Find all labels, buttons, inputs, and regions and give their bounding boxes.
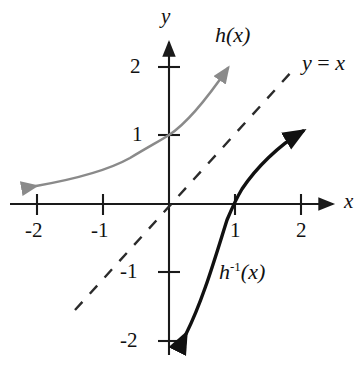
y-tick-label--2: -2 — [120, 330, 138, 351]
y-tick-label-2: 2 — [130, 56, 141, 77]
x-tick-label--1: -1 — [91, 220, 109, 241]
y-axis — [158, 42, 180, 355]
identity-label-x-part: x — [335, 50, 345, 75]
identity-label-y-part: y — [302, 50, 312, 75]
y-axis-label: y — [161, 6, 170, 27]
curve-label-h: h(x) — [215, 24, 250, 46]
inverse-label-argument: (x) — [241, 259, 265, 284]
x-tick-label--2: -2 — [25, 220, 43, 241]
inverse-label-exponent: -1 — [230, 259, 241, 274]
curve-label-h-inverse: h-1(x) — [219, 260, 265, 283]
identity-label-equals-part: = — [312, 50, 335, 75]
x-tick-label-1: 1 — [230, 220, 241, 241]
x-axis-label: x — [344, 191, 353, 212]
curve-h-inverse — [186, 131, 303, 334]
identity-line-label: y = x — [302, 52, 345, 74]
y-tick-label-1: 1 — [132, 124, 143, 145]
x-tick-label-2: 2 — [296, 220, 307, 241]
y-tick-label--1: -1 — [120, 261, 138, 282]
inverse-label-base: h — [219, 259, 230, 284]
figure-canvas: -2 -1 1 2 2 1 -1 -2 y x h(x) y = x h-1(x… — [0, 0, 363, 365]
